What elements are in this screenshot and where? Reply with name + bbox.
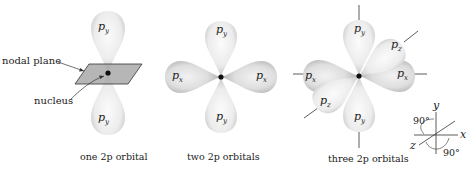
z-axis-stub-top: [404, 31, 418, 42]
caption-three: three 2p orbitals: [328, 153, 409, 164]
axis-label-x: x: [460, 128, 467, 141]
px-lobe-right: [221, 61, 277, 93]
panel-one-orbital: py py nodal plane nucleus one 2p orbital: [2, 11, 148, 162]
py-lobe-bottom: [205, 77, 237, 133]
axis-label-z: z: [409, 139, 416, 152]
caption-two: two 2p orbitals: [187, 151, 260, 162]
coordinate-axes: y x z 90° 90°: [409, 99, 467, 158]
caption-one: one 2p orbital: [80, 151, 148, 162]
nucleus-label: nucleus: [34, 95, 73, 106]
label-pz-top: pz: [391, 38, 402, 53]
nucleus-dot: [356, 73, 361, 78]
z-axis-stub-bottom: [304, 108, 318, 118]
nucleus-dot: [105, 70, 110, 75]
angle-label-bottom: 90°: [443, 147, 460, 158]
orbital-diagram: py py nodal plane nucleus one 2p orbital…: [0, 0, 470, 172]
angle-label-top: 90°: [413, 115, 430, 126]
panel-three-orbitals: py pz px px pz py three 2p orbitals: [293, 5, 427, 164]
axis-label-y: y: [432, 99, 440, 112]
nucleus-dot: [218, 74, 223, 79]
arrowhead-icon: [79, 68, 84, 72]
panel-two-orbitals: py px px py two 2p orbitals: [165, 21, 277, 162]
nodal-plane-label: nodal plane: [2, 55, 61, 66]
